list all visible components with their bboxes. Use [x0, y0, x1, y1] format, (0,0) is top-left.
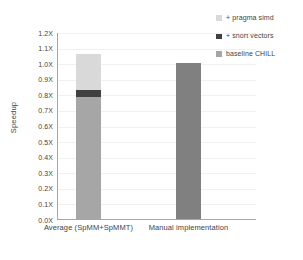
bar-group[interactable]: [76, 32, 101, 219]
bar-segment-baseline-chill[interactable]: [176, 63, 201, 219]
y-axis-tick-label: 0.1X: [19, 201, 53, 208]
bar-group[interactable]: [176, 32, 201, 219]
y-axis-tick-label: 0.9X: [19, 76, 53, 83]
y-axis-tick-label: 1.0X: [19, 61, 53, 68]
bar-segment-baseline-chill[interactable]: [76, 97, 101, 219]
y-axis-tick-label: 0.7X: [19, 107, 53, 114]
y-axis-tick-label: 0.2X: [19, 185, 53, 192]
y-axis-tick-label: 0.3X: [19, 170, 53, 177]
y-axis-tick-labels: 1.2X1.1X1.0X0.9X0.8X0.7X0.6X0.5X0.4X0.3X…: [17, 33, 53, 220]
bar-segment-pragma-simd[interactable]: [76, 54, 101, 90]
legend-label-pragma-simd: + pragma simd: [226, 14, 274, 22]
y-axis-tick-label: 0.5X: [19, 139, 53, 146]
y-axis-tick-label: 1.1X: [19, 45, 53, 52]
x-axis-line: [57, 219, 256, 220]
legend-swatch-icon-pragma-simd: [216, 15, 222, 21]
y-axis-tick-label: 0.6X: [19, 123, 53, 130]
x-axis-tick-label: Manual implementation: [89, 223, 288, 232]
legend-item-pragma-simd: + pragma simd: [216, 11, 300, 24]
bar-segment-short-vectors[interactable]: [76, 90, 101, 98]
chart-container: + pragma simd + short vectors baseline C…: [0, 0, 303, 260]
plot-area: [57, 33, 256, 220]
y-axis-line: [57, 33, 58, 220]
y-axis-tick-label: 0.4X: [19, 154, 53, 161]
x-axis-tick-labels: Average (SpMM+SpMMT)Manual implementatio…: [57, 223, 256, 237]
y-axis-tick-label: 0.8X: [19, 92, 53, 99]
y-axis-tick-label: 1.2X: [19, 30, 53, 37]
